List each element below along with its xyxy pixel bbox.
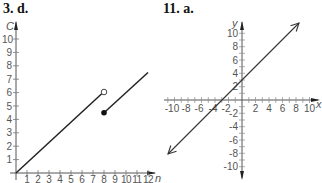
left-graph: 1 2 3 4 5 6 7 8 9 10 C 1: [2, 20, 161, 183]
svg-text:9: 9: [6, 47, 12, 58]
svg-text:8: 8: [293, 103, 299, 114]
svg-text:-2: -2: [229, 108, 238, 119]
svg-text:10: 10: [227, 28, 239, 39]
graphs-canvas: 1 2 3 4 5 6 7 8 9 10 C 1: [0, 0, 322, 183]
svg-text:12: 12: [143, 174, 154, 183]
svg-text:5: 5: [6, 101, 12, 112]
svg-text:5: 5: [68, 174, 74, 183]
svg-text:2: 2: [35, 174, 41, 183]
svg-text:4: 4: [232, 68, 238, 79]
left-segment-1: [16, 94, 102, 174]
svg-text:11: 11: [132, 174, 142, 183]
svg-text:4: 4: [266, 103, 272, 114]
svg-text:7: 7: [6, 74, 12, 85]
svg-text:-6: -6: [229, 135, 238, 146]
svg-text:3: 3: [46, 174, 52, 183]
left-y-axis-label: C: [6, 20, 14, 32]
left-y-tick-labels: 1 2 3 4 5 6 7 8 9 10: [2, 34, 14, 165]
svg-text:4: 4: [57, 174, 63, 183]
svg-text:10: 10: [121, 174, 132, 183]
svg-text:-4: -4: [229, 121, 238, 132]
svg-text:6: 6: [280, 103, 286, 114]
right-x-tick-labels: -10 -8 -6 -4 -2 2 4 6 8 10: [165, 103, 316, 114]
svg-text:4: 4: [6, 114, 12, 125]
svg-text:-10: -10: [224, 161, 239, 172]
svg-text:-8: -8: [182, 103, 191, 114]
right-x-axis-label: x: [315, 98, 322, 110]
right-graph: -10 -8 -6 -4 -2 2 4 6 8 10 x: [164, 17, 322, 180]
left-x-axis-label: n: [155, 172, 161, 183]
right-y-axis-down-arrow-icon: [240, 171, 244, 180]
svg-text:8: 8: [101, 174, 107, 183]
closed-circle-endpoint: [101, 110, 107, 116]
svg-text:6: 6: [6, 87, 12, 98]
svg-text:-10: -10: [165, 103, 180, 114]
right-y-axis-up-arrow-icon: [240, 21, 244, 30]
svg-text:7: 7: [90, 174, 96, 183]
svg-text:9: 9: [112, 174, 118, 183]
svg-text:2: 2: [253, 103, 259, 114]
svg-text:1: 1: [24, 174, 30, 183]
svg-text:8: 8: [232, 41, 238, 52]
svg-text:10: 10: [304, 103, 316, 114]
svg-text:6: 6: [232, 55, 238, 66]
left-x-tick-labels: 1 2 3 4 5 6 7 8 9 10 11 12: [24, 174, 154, 183]
left-y-axis-arrow-icon: [14, 21, 18, 30]
svg-text:2: 2: [6, 141, 12, 152]
svg-text:-8: -8: [229, 148, 238, 159]
open-circle-endpoint: [101, 89, 107, 95]
left-segment-2: [104, 73, 148, 113]
svg-text:-6: -6: [195, 103, 204, 114]
svg-text:3: 3: [6, 127, 12, 138]
svg-text:1: 1: [6, 154, 12, 165]
svg-text:6: 6: [79, 174, 85, 183]
svg-text:10: 10: [2, 34, 14, 45]
svg-text:8: 8: [6, 60, 12, 71]
